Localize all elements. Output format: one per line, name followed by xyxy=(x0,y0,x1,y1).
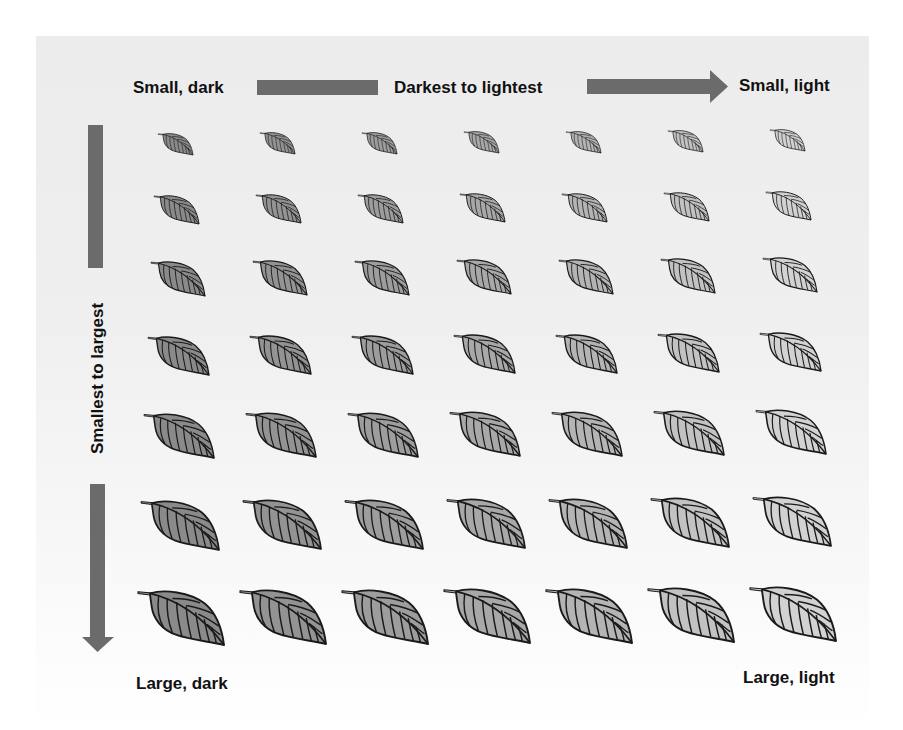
leaf-icon xyxy=(460,193,505,222)
leaf-icon xyxy=(144,413,214,458)
leaf-icon xyxy=(763,257,817,292)
down-arrow-icon xyxy=(81,484,115,653)
leaf-icon xyxy=(246,412,316,457)
leaf-icon xyxy=(352,335,413,374)
leaf-icon xyxy=(154,195,199,224)
leaf-icon xyxy=(362,132,397,154)
leaf-icon xyxy=(342,589,428,644)
leaf-icon xyxy=(651,497,729,547)
leaf-icon xyxy=(654,410,724,455)
leaf-icon xyxy=(668,130,703,152)
leaf-icon xyxy=(766,191,811,220)
right-arrow-icon xyxy=(587,70,729,103)
leaf-icon xyxy=(552,411,622,456)
leaf-icon xyxy=(559,259,613,294)
leaf-icon xyxy=(260,132,295,154)
leaf-icon xyxy=(138,590,224,645)
leaf-icon xyxy=(250,335,311,374)
label-large-light: Large, light xyxy=(743,669,835,686)
leaf-icon xyxy=(444,588,530,643)
leaf-icon xyxy=(562,193,607,222)
leaf-icon xyxy=(240,589,326,644)
leaf-icon xyxy=(770,129,805,151)
label-darkest-to-lightest: Darkest to lightest xyxy=(394,79,542,96)
leaf-icon xyxy=(348,412,418,457)
horizontal-arrow-shaft-left xyxy=(257,80,378,95)
leaf-icon xyxy=(750,586,836,641)
leaf-icon xyxy=(151,261,205,296)
leaf-icon xyxy=(566,131,601,153)
leaf-icon xyxy=(358,194,403,223)
leaf-icon xyxy=(148,336,209,375)
leaf-icon xyxy=(464,131,499,153)
leaf-icon xyxy=(454,334,515,373)
leaf-icon xyxy=(549,498,627,548)
leaf-icon xyxy=(256,194,301,223)
leaf-icon xyxy=(661,258,715,293)
leaf-icon xyxy=(648,587,734,642)
leaf-icon xyxy=(141,500,219,550)
label-large-dark: Large, dark xyxy=(136,675,228,692)
leaf-icon xyxy=(760,332,821,371)
leaf-icon xyxy=(253,260,307,295)
leaf-icon xyxy=(450,411,520,456)
leaf-icon xyxy=(546,588,632,643)
label-smallest-to-largest: Smallest to largest xyxy=(89,284,106,474)
label-small-dark: Small, dark xyxy=(133,79,224,96)
leaf-icon xyxy=(556,334,617,373)
vertical-arrow-shaft-top xyxy=(88,125,103,268)
label-small-light: Small, light xyxy=(739,77,830,94)
leaf-icon xyxy=(753,496,831,546)
leaf-icon xyxy=(756,409,826,454)
leaf-icon xyxy=(355,260,409,295)
leaf-icon xyxy=(664,192,709,221)
leaf-icon xyxy=(345,499,423,549)
leaf-icon xyxy=(158,133,193,155)
leaf-icon xyxy=(457,259,511,294)
leaf-icon xyxy=(658,333,719,372)
leaf-icon xyxy=(447,498,525,548)
leaf-icon xyxy=(243,499,321,549)
